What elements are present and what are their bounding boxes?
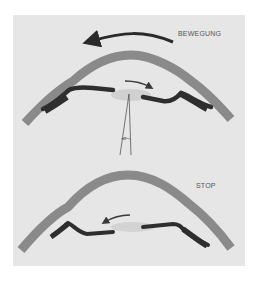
top-eye-diagram bbox=[25, 34, 231, 155]
stop-label: STOP bbox=[196, 182, 216, 189]
small-arrow-icon-bottom bbox=[105, 215, 130, 222]
cornea-shape bbox=[25, 55, 231, 123]
movement-label: BEWEGUNG bbox=[178, 30, 221, 37]
angle-line-right bbox=[129, 94, 131, 155]
eye-diagram bbox=[13, 15, 245, 266]
small-arrow-icon bbox=[125, 81, 150, 87]
angle-line-left bbox=[120, 94, 129, 155]
figure-panel: BEWEGUNG α STOP bbox=[13, 15, 245, 266]
movement-arrow-icon bbox=[91, 34, 173, 42]
angle-label: α bbox=[123, 135, 126, 141]
